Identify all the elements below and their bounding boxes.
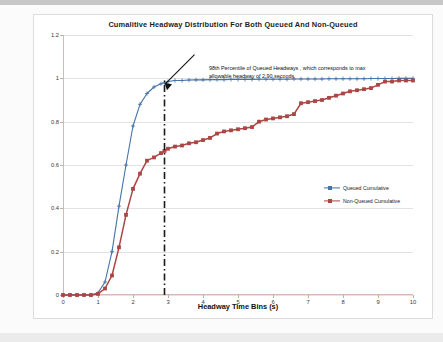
x-tick-label: 2: [131, 299, 134, 305]
data-point: [131, 187, 135, 191]
legend-swatch-non-queued: [324, 197, 340, 205]
chart-legend: Queued Cumulative Non-Queued Cumulative: [324, 181, 400, 207]
data-point: [180, 78, 184, 82]
data-point: [117, 245, 121, 249]
x-tick-mark: [238, 295, 239, 298]
data-point: [250, 125, 254, 129]
data-point: [117, 204, 121, 208]
x-tick-label: 6: [271, 299, 274, 305]
data-point: [299, 101, 303, 105]
data-point: [61, 293, 65, 297]
x-tick-mark: [413, 295, 414, 298]
data-point: [173, 78, 177, 82]
data-point: [187, 141, 191, 145]
data-point: [313, 99, 317, 103]
data-point: [222, 130, 226, 134]
data-point: [369, 86, 373, 90]
x-tick-label: 7: [306, 299, 309, 305]
x-tick-label: 4: [201, 299, 204, 305]
percentile-annotation: 98th Percentile of Queued Headways , whi…: [209, 65, 384, 81]
data-point: [159, 151, 163, 155]
data-point: [334, 94, 338, 98]
data-point: [404, 79, 408, 83]
y-tick-label: 1.2: [51, 32, 59, 38]
callout-arrow-line: [166, 55, 195, 84]
data-point: [327, 96, 331, 100]
x-tick-label: 5: [236, 299, 239, 305]
legend-label-non-queued: Non-Queued Cumulative: [343, 198, 400, 204]
x-tick-mark: [203, 295, 204, 298]
x-tick-label: 3: [166, 299, 169, 305]
y-tick-label: 0.8: [51, 119, 59, 125]
data-point: [397, 79, 401, 83]
data-point: [264, 118, 268, 122]
data-point: [362, 87, 366, 91]
data-point: [278, 115, 282, 119]
data-point: [173, 145, 177, 149]
legend-label-queued: Queued Cumulative: [343, 185, 389, 191]
data-point: [180, 144, 184, 148]
x-tick-mark: [343, 295, 344, 298]
data-point: [89, 293, 93, 297]
data-point: [229, 128, 233, 132]
chart-title: Cumalitive Headway Distribution For Both…: [34, 20, 432, 29]
y-tick-label: 0.4: [51, 205, 59, 211]
data-point: [306, 100, 310, 104]
data-point: [348, 89, 352, 93]
data-point: [152, 156, 156, 160]
callout-arrow-head: [165, 83, 173, 91]
data-point: [96, 292, 100, 296]
x-tick-mark: [133, 295, 134, 298]
y-tick-label: 0: [56, 292, 59, 298]
legend-swatch-queued: [324, 184, 340, 192]
data-point: [208, 136, 212, 140]
data-point: [201, 138, 205, 142]
x-tick-label: 8: [341, 299, 344, 305]
data-point: [257, 120, 261, 124]
data-point: [194, 78, 198, 82]
data-point: [138, 172, 142, 176]
y-tick-label: 0.6: [51, 162, 59, 168]
data-point: [131, 124, 135, 128]
data-point: [285, 114, 289, 118]
x-tick-label: 10: [410, 299, 416, 305]
data-point: [68, 293, 72, 297]
x-tick-mark: [168, 295, 169, 298]
x-tick-mark: [378, 295, 379, 298]
data-point: [187, 78, 191, 82]
data-point: [411, 79, 415, 83]
data-point: [215, 132, 219, 136]
data-point: [110, 250, 114, 254]
x-tick-label: 1: [96, 299, 99, 305]
y-tick-label: 0.2: [51, 249, 59, 255]
chart-frame: Cumalitive Headway Distribution For Both…: [33, 14, 433, 319]
legend-item-queued: Queued Cumulative: [324, 181, 400, 194]
data-point: [110, 274, 114, 278]
data-point: [194, 140, 198, 144]
x-tick-label: 9: [376, 299, 379, 305]
data-point: [236, 127, 240, 131]
data-point: [145, 159, 149, 163]
x-tick-mark: [308, 295, 309, 298]
data-point: [390, 80, 394, 84]
data-point: [355, 88, 359, 92]
x-tick-label: 0: [61, 299, 64, 305]
data-point: [271, 117, 275, 121]
data-point: [376, 83, 380, 87]
legend-item-non-queued: Non-Queued Cumulative: [324, 194, 400, 207]
data-point: [243, 126, 247, 130]
data-point: [75, 293, 79, 297]
data-point: [166, 147, 170, 151]
data-point: [124, 213, 128, 217]
data-point: [82, 293, 86, 297]
data-point: [341, 92, 345, 96]
x-tick-mark: [273, 295, 274, 298]
data-point: [124, 163, 128, 167]
y-tick-label: 1: [56, 75, 59, 81]
data-point: [201, 78, 205, 82]
data-point: [103, 287, 107, 291]
scanned-page: Cumalitive Headway Distribution For Both…: [0, 0, 443, 342]
data-point: [292, 112, 296, 116]
data-point: [320, 98, 324, 102]
